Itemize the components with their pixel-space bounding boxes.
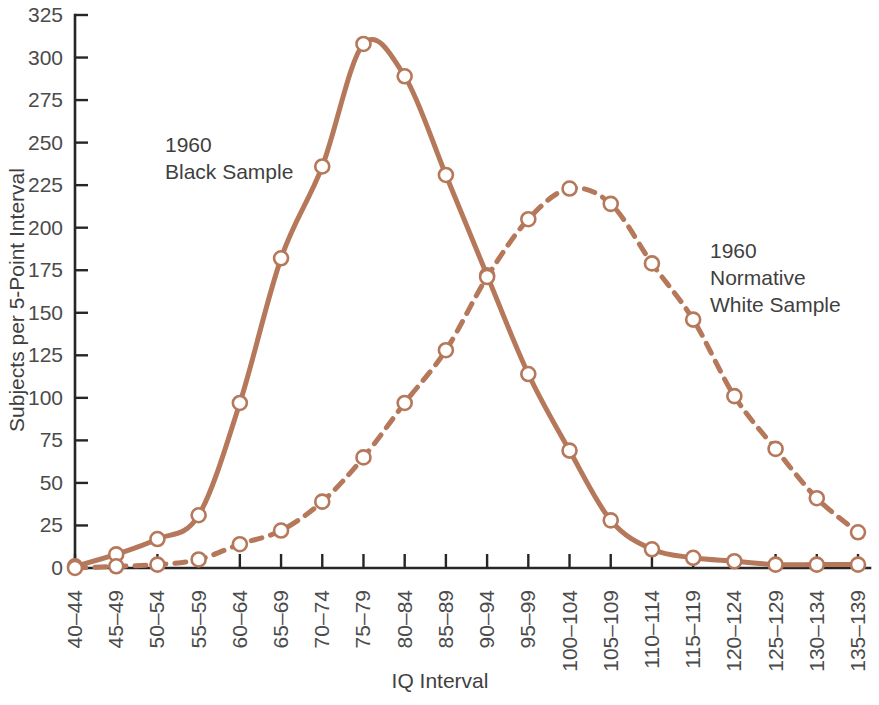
y-tick-label: 175 [28, 258, 63, 281]
data-point-marker [686, 551, 700, 565]
y-tick-label: 325 [28, 3, 63, 26]
x-tick-label: 40–44 [63, 590, 86, 649]
y-axis-title: Subjects per 5-Point Interval [5, 168, 28, 432]
x-tick-label: 60–64 [228, 590, 251, 649]
y-tick-label: 225 [28, 173, 63, 196]
y-tick-label: 275 [28, 88, 63, 111]
data-point-marker [563, 444, 577, 458]
data-point-marker [810, 558, 824, 572]
x-tick-label: 115–119 [681, 590, 704, 669]
y-tick-label: 0 [51, 556, 63, 579]
x-tick-label: 75–79 [351, 590, 374, 648]
data-point-marker [521, 367, 535, 381]
y-tick-label: 100 [28, 386, 63, 409]
x-tick-label: 90–94 [475, 590, 498, 649]
annotation-line: White Sample [710, 293, 841, 316]
data-point-marker [604, 197, 618, 211]
data-point-marker [274, 524, 288, 538]
x-tick-label: 120–124 [722, 590, 745, 672]
data-point-marker [810, 491, 824, 505]
data-point-marker [192, 552, 206, 566]
y-tick-label: 200 [28, 216, 63, 239]
x-tick-label: 135–139 [846, 590, 869, 672]
data-point-marker [398, 396, 412, 410]
y-tick-label: 125 [28, 343, 63, 366]
annotation-line: 1960 [165, 133, 212, 156]
x-axis-title: IQ Interval [392, 669, 489, 692]
data-point-marker [727, 554, 741, 568]
data-point-marker [439, 168, 453, 182]
data-point-marker [150, 558, 164, 572]
data-point-marker [398, 69, 412, 83]
x-tick-label: 80–84 [393, 590, 416, 649]
data-point-marker [604, 513, 618, 527]
data-point-marker [851, 558, 865, 572]
x-tick-label: 85–89 [434, 590, 457, 648]
data-point-marker [645, 542, 659, 556]
x-axis-tick-labels: 40–4445–4950–5455–5960–6465–6970–7475–79… [63, 590, 869, 672]
x-tick-label: 105–109 [599, 590, 622, 672]
annotation-line: Black Sample [165, 160, 293, 183]
x-tick-label: 70–74 [310, 590, 333, 649]
x-tick-label: 125–129 [764, 590, 787, 672]
x-tick-label: 110–114 [640, 590, 663, 669]
x-tick-label: 55–59 [187, 590, 210, 648]
data-point-marker [727, 389, 741, 403]
iq-distribution-line-chart: Subjects per 5-Point Interval 0255075100… [0, 0, 879, 705]
x-tick-label: 130–134 [805, 590, 828, 672]
data-point-marker [521, 212, 535, 226]
y-tick-label: 300 [28, 46, 63, 69]
y-tick-label: 75 [40, 428, 63, 451]
data-point-marker [480, 270, 494, 284]
data-point-marker [851, 525, 865, 539]
y-tick-label: 50 [40, 471, 63, 494]
data-point-marker [356, 37, 370, 51]
data-point-marker [686, 313, 700, 327]
data-point-marker [109, 559, 123, 573]
y-axis-tick-labels: 0255075100125150175200225250275300325 [28, 3, 63, 579]
y-tick-label: 25 [40, 513, 63, 536]
data-point-marker [439, 343, 453, 357]
x-tick-label: 45–49 [104, 590, 127, 648]
data-point-marker [233, 396, 247, 410]
annotation-line: 1960 [710, 239, 757, 262]
x-tick-label: 50–54 [145, 590, 168, 649]
data-point-marker [769, 442, 783, 456]
data-point-marker [274, 251, 288, 265]
x-tick-label: 100–104 [558, 590, 581, 672]
x-tick-label: 95–99 [516, 590, 539, 648]
chart-container: Subjects per 5-Point Interval 0255075100… [0, 0, 879, 705]
y-tick-label: 250 [28, 131, 63, 154]
black-sample-annotation: 1960Black Sample [165, 133, 293, 183]
axis-lines [75, 15, 870, 568]
data-point-marker [192, 508, 206, 522]
data-point-marker [563, 182, 577, 196]
annotation-line: Normative [710, 266, 806, 289]
data-point-marker [356, 450, 370, 464]
series-annotations: 1960Black Sample1960NormativeWhite Sampl… [165, 133, 841, 316]
data-point-marker [233, 537, 247, 551]
data-point-marker [150, 532, 164, 546]
x-tick-label: 65–69 [269, 590, 292, 648]
data-point-marker [315, 495, 329, 509]
data-point-marker [68, 561, 82, 575]
data-point-marker [769, 558, 783, 572]
white-sample-annotation: 1960NormativeWhite Sample [710, 239, 841, 316]
data-point-marker [315, 159, 329, 173]
y-tick-label: 150 [28, 301, 63, 324]
data-point-marker [645, 256, 659, 270]
